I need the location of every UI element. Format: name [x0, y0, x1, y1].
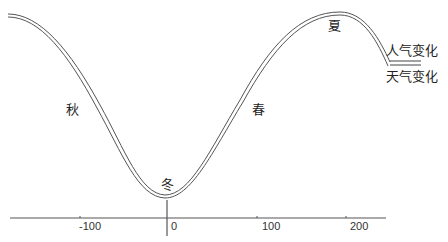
tick-label-200: 200 [350, 221, 368, 232]
label-summer: 夏 [328, 19, 341, 32]
legend-weather-change: 天气变化 [386, 70, 438, 83]
label-spring: 春 [252, 103, 265, 116]
label-winter: 冬 [161, 178, 174, 191]
legend-popularity-change: 人气变化 [386, 44, 438, 57]
label-autumn: 秋 [66, 103, 79, 116]
tick-label-100: 100 [262, 221, 280, 232]
season-curve-diagram [0, 0, 448, 242]
tick-label-neg100: -100 [79, 221, 101, 232]
tick-label-0: 0 [171, 221, 177, 232]
